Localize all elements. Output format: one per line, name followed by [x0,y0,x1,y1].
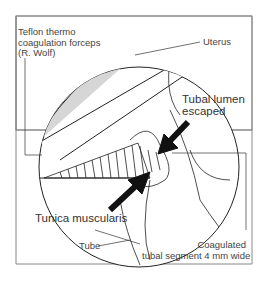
label-tunica-muscularis: Tunica muscularis [35,212,127,224]
label-line: Teflon thermo [18,27,100,38]
label-tubal-lumen: Tubal lumen escaped [182,93,245,117]
label-line: Tubal lumen [182,93,245,105]
label-uterus: Uterus [203,37,231,48]
label-forceps: Teflon thermo coagulation forceps (R. Wo… [18,27,100,59]
label-line: Coagulated [142,240,246,251]
label-tube: Tube [79,241,100,252]
label-line: (R. Wolf) [18,48,100,59]
label-line: escaped [182,105,245,117]
label-coagulated-segment: Coagulated tubal segment 4 mm wide [142,240,246,261]
label-line: tubal segment 4 mm wide [142,251,246,262]
